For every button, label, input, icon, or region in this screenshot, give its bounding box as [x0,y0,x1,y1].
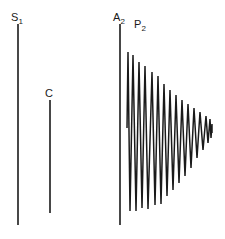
trace-canvas [0,0,225,239]
label-c: C [45,88,53,99]
label-a2-subscript: 2 [121,17,126,26]
label-p2: P2 [134,19,146,33]
label-a2: A2 [113,12,125,26]
label-p2-base: P [134,18,142,30]
label-s1-base: S [11,11,19,23]
p2-oscillation-waveform [127,52,212,211]
label-p2-subscript: 2 [142,24,147,33]
phonocardiogram-figure: S1 C A2 P2 [0,0,225,239]
label-s1: S1 [11,12,23,26]
label-a2-base: A [113,11,121,23]
label-c-base: C [45,87,53,99]
label-s1-subscript: 1 [19,17,24,26]
trace-group [18,24,212,225]
